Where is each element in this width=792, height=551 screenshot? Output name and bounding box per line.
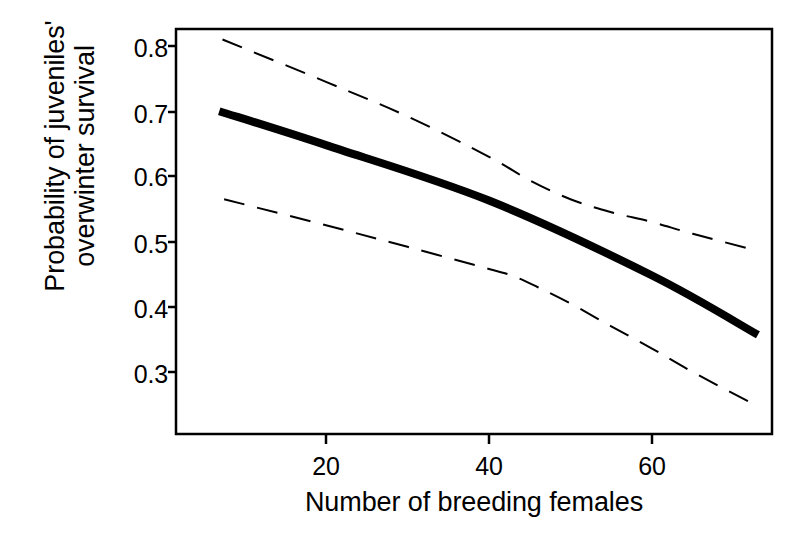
series-line-0 (219, 111, 758, 335)
plot-area (0, 0, 792, 551)
series-line-2 (224, 199, 750, 402)
x-axis-ticks (326, 434, 652, 444)
data-series-layer (219, 39, 758, 402)
chart-figure: Probability of juveniles'overwinter surv… (0, 0, 792, 551)
axes-frame (176, 29, 772, 434)
